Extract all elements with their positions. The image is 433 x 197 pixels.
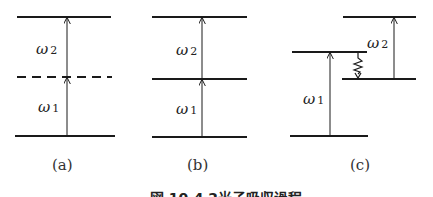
- panel-label-c: (c): [350, 156, 370, 174]
- panel-b: ω2 ω1 (b): [152, 17, 247, 174]
- omega-1-label: ω1: [303, 90, 324, 108]
- omega-1-label: ω1: [176, 100, 197, 118]
- relaxation-wavy-arrow-icon: [354, 53, 362, 78]
- panel-a: ω2 ω1 (a): [15, 17, 115, 174]
- figure-caption: 図 10.4 2光子吸収過程: [150, 190, 302, 197]
- panel-c: ω2 ω1 (c): [290, 17, 416, 174]
- panel-label-b: (b): [187, 156, 208, 174]
- omega-2-label: ω2: [176, 41, 197, 59]
- omega-1-label: ω1: [38, 98, 59, 116]
- panel-label-a: (a): [52, 156, 73, 174]
- omega-2-label: ω2: [36, 40, 57, 58]
- omega-2-label: ω2: [367, 34, 388, 52]
- energy-level-diagram: ω2 ω1 (a) ω2 ω1 (b) ω2 ω1 (c) 図 10.4 2光子…: [0, 0, 433, 197]
